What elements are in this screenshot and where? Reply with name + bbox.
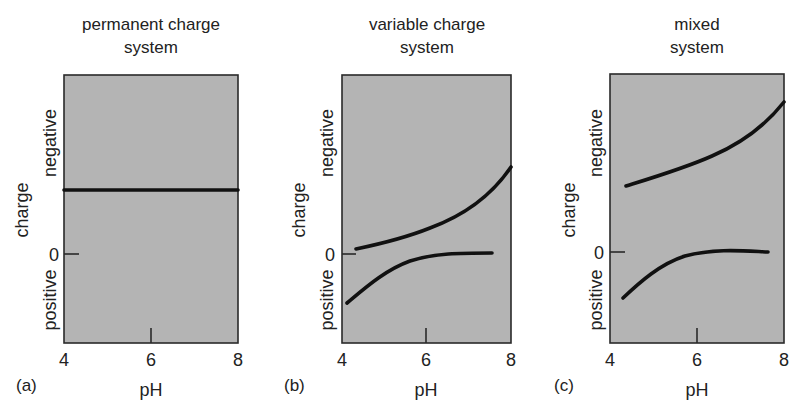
panel-a-ylabel: charge xyxy=(12,182,32,237)
panel-b-title-line2: system xyxy=(400,38,454,57)
panel-b-negative-label: negative xyxy=(317,109,337,177)
panel-c-x-tick-label-8: 8 xyxy=(779,350,789,370)
panel-c-title-line2: system xyxy=(670,38,724,57)
panel-c-title-line1: mixed xyxy=(674,15,719,34)
panel-a-label: (a) xyxy=(16,376,37,395)
panel-a-x-tick-label-8: 8 xyxy=(233,350,243,370)
panel-b-zero-label: 0 xyxy=(325,245,335,265)
panel-c-x-tick-label-4: 4 xyxy=(605,350,615,370)
panel-a-x-tick-label-6: 6 xyxy=(146,350,156,370)
panel-b-x-tick-label-6: 6 xyxy=(421,350,431,370)
panel-b-xlabel: pH xyxy=(414,380,437,400)
panel-b: variable charge system charge negative p… xyxy=(284,15,516,400)
panel-b-title-line1: variable charge xyxy=(369,15,485,34)
panel-c: mixed system charge negative positive 0 … xyxy=(554,15,789,400)
panel-c-label: (c) xyxy=(554,376,574,395)
panel-b-ylabel: charge xyxy=(289,182,309,237)
panel-c-xlabel: pH xyxy=(685,380,708,400)
panel-b-x-tick-label-8: 8 xyxy=(506,350,516,370)
panel-c-positive-label: positive xyxy=(586,269,606,330)
panel-b-label: (b) xyxy=(284,376,305,395)
panel-a-xlabel: pH xyxy=(139,380,162,400)
panel-c-x-tick-label-6: 6 xyxy=(692,350,702,370)
figure: permanent charge system charge negative … xyxy=(0,0,796,419)
panel-a-x-tick-label-4: 4 xyxy=(59,350,69,370)
panel-a-zero-label: 0 xyxy=(49,245,59,265)
panel-c-plot-area xyxy=(610,74,784,343)
panel-a-plot-area xyxy=(64,75,238,343)
panel-a-title-line1: permanent charge xyxy=(82,15,220,34)
panel-b-positive-label: positive xyxy=(317,269,337,330)
panel-c-negative-label: negative xyxy=(586,109,606,177)
panel-a-positive-label: positive xyxy=(40,269,60,330)
panel-c-ylabel: charge xyxy=(559,182,579,237)
panel-a-negative-label: negative xyxy=(40,109,60,177)
panel-b-x-tick-label-4: 4 xyxy=(337,350,347,370)
panel-a-title-line2: system xyxy=(124,38,178,57)
panel-c-zero-label: 0 xyxy=(594,243,604,263)
panel-b-plot-area xyxy=(342,75,511,343)
panel-a: permanent charge system charge negative … xyxy=(12,15,243,400)
